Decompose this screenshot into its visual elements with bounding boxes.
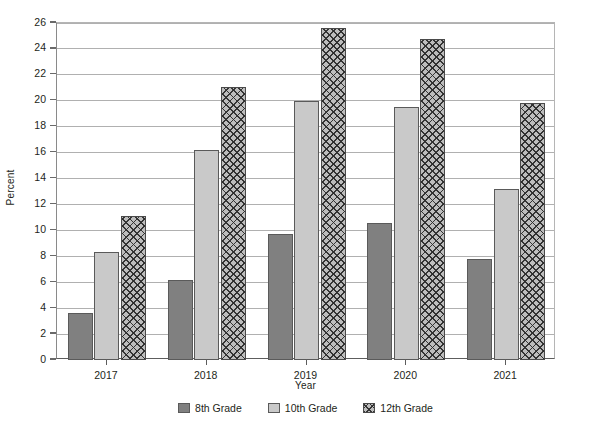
bar-2017-10th-grade	[94, 252, 119, 360]
y-axis-tick-label: 14	[6, 172, 46, 183]
y-axis-tick-mark	[50, 177, 56, 178]
y-axis-tick-mark	[50, 332, 56, 333]
x-axis-tick-label: 2021	[465, 370, 545, 381]
y-axis-tick-label: 0	[6, 354, 46, 365]
bar-2021-10th-grade	[494, 189, 519, 360]
y-axis-tick-mark	[50, 307, 56, 308]
bar-2017-12th-grade	[121, 216, 146, 360]
legend-item-10th-grade[interactable]: 10th Grade	[268, 403, 338, 414]
bar-2019-12th-grade	[321, 28, 346, 360]
bar-2020-10th-grade	[394, 107, 419, 360]
x-axis-tick-mark	[405, 359, 406, 365]
x-axis-tick-mark	[306, 359, 307, 365]
y-axis-tick-label: 20	[6, 94, 46, 105]
legend-swatch-icon	[178, 403, 190, 413]
x-axis-tick-mark	[505, 359, 506, 365]
y-axis-tick-label: 18	[6, 120, 46, 131]
legend-item-12th-grade[interactable]: 12th Grade	[363, 403, 433, 414]
y-axis-tick-label: 8	[6, 250, 46, 261]
bar-2018-12th-grade	[221, 87, 246, 360]
bar-2018-10th-grade	[194, 150, 219, 360]
y-axis-tick-mark	[50, 21, 56, 22]
bar-2021-12th-grade	[520, 103, 545, 360]
y-axis-tick-label: 16	[6, 146, 46, 157]
y-axis-tick-label: 2	[6, 328, 46, 339]
y-axis-tick-mark	[50, 151, 56, 152]
y-axis-tick-mark	[50, 229, 56, 230]
bar-2019-8th-grade	[268, 234, 293, 360]
y-axis-tick-mark	[50, 99, 56, 100]
y-axis-tick-mark	[50, 125, 56, 126]
y-axis-tick-label: 24	[6, 42, 46, 53]
legend-item-8th-grade[interactable]: 8th Grade	[178, 403, 242, 414]
x-axis-tick-mark	[206, 359, 207, 365]
y-axis-tick-mark	[50, 73, 56, 74]
x-axis-tick-label: 2019	[266, 370, 346, 381]
bar-2019-10th-grade	[294, 101, 319, 360]
y-axis-tick-mark	[50, 255, 56, 256]
chart-legend: 8th Grade10th Grade12th Grade	[56, 403, 555, 414]
bar-2020-8th-grade	[367, 223, 392, 360]
gridline	[57, 74, 554, 75]
bar-2020-12th-grade	[420, 39, 445, 360]
legend-swatch-icon	[268, 403, 280, 413]
x-axis-title: Year	[56, 380, 555, 391]
gridline	[57, 48, 554, 49]
y-axis-tick-label: 26	[6, 17, 46, 28]
plot-area	[56, 22, 555, 359]
x-axis-tick-label: 2017	[66, 370, 146, 381]
y-axis-tick-label: 12	[6, 198, 46, 209]
y-axis-title: Percent	[5, 156, 16, 220]
gridline	[57, 23, 554, 24]
legend-swatch-icon	[363, 403, 375, 413]
bar-2018-8th-grade	[168, 280, 193, 360]
y-axis-tick-mark	[50, 358, 56, 359]
x-axis-tick-label: 2020	[365, 370, 445, 381]
x-axis-tick-label: 2018	[166, 370, 246, 381]
y-axis-tick-mark	[50, 203, 56, 204]
grouped-bar-chart: Percent 02468101214161820222426 20172018…	[0, 0, 590, 426]
y-axis-tick-label: 6	[6, 276, 46, 287]
x-axis-tick-mark	[106, 359, 107, 365]
y-axis-tick-label: 22	[6, 68, 46, 79]
legend-label: 12th Grade	[380, 403, 433, 414]
bar-2021-8th-grade	[467, 259, 492, 360]
y-axis-tick-label: 10	[6, 224, 46, 235]
y-axis-tick-mark	[50, 281, 56, 282]
y-axis-tick-label: 4	[6, 302, 46, 313]
legend-label: 10th Grade	[285, 403, 338, 414]
bar-2017-8th-grade	[68, 313, 93, 360]
y-axis-tick-mark	[50, 47, 56, 48]
legend-label: 8th Grade	[195, 403, 242, 414]
